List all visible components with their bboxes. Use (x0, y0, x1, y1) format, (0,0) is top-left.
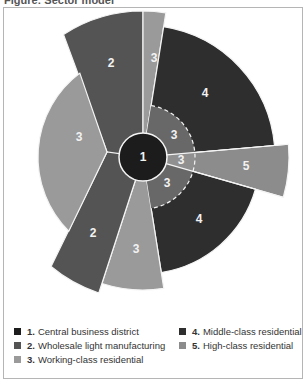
inner-ring-label-0: 3 (171, 128, 178, 142)
sector-label-bottom-3: 3 (133, 242, 140, 256)
legend-number: 4. (192, 326, 200, 337)
legend-swatch-3 (14, 356, 21, 363)
legend-item-working-class: 3. Working-class residential (14, 354, 143, 365)
inner-ring-label-2: 3 (164, 176, 171, 190)
sector-label-lower-2: 2 (90, 226, 97, 240)
legend-label: High-class residential (203, 340, 293, 351)
sector-label-top-3: 3 (151, 51, 158, 65)
legend-number: 3. (27, 354, 35, 365)
legend-item-cbd: 1. Central business district (14, 326, 139, 337)
legend-item-high-class: 5. High-class residential (179, 340, 293, 351)
legend-swatch-4 (179, 328, 186, 335)
legend-number: 5. (192, 340, 200, 351)
legend-swatch-5 (179, 342, 186, 349)
sector-label-upper-4: 4 (202, 86, 209, 100)
sector-label-lower-4: 4 (196, 212, 203, 226)
legend-swatch-1 (14, 328, 21, 335)
inner-ring-label-1: 3 (178, 153, 185, 167)
legend-label: Central business district (38, 326, 139, 337)
legend-number: 2. (27, 340, 35, 351)
legend-label: Wholesale light manufacturing (38, 340, 165, 351)
cbd-core-label: 1 (140, 150, 147, 164)
legend-swatch-2 (14, 342, 21, 349)
legend-item-wholesale: 2. Wholesale light manufacturing (14, 340, 165, 351)
legend-item-middle-class: 4. Middle-class residential (179, 326, 302, 337)
sector-label-upper-2: 2 (108, 56, 115, 70)
legend-label: Middle-class residential (203, 326, 302, 337)
legend-label: Working-class residential (38, 354, 143, 365)
sector-label-right-5: 5 (243, 159, 250, 173)
legend-number: 1. (27, 326, 35, 337)
sector-label-left-3: 3 (76, 130, 83, 144)
